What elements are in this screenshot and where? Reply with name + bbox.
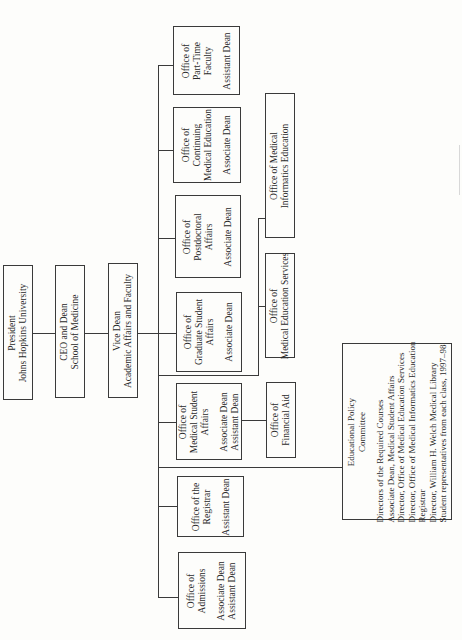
ceo-title: CEO and Dean — [59, 294, 70, 369]
stub-registrar — [158, 506, 177, 507]
committee-member: Director, William H. Welch Medical Libra… — [427, 341, 438, 522]
president-box: President Johns Hopkins University — [3, 265, 33, 400]
office-name-line: Postdoctoral — [193, 207, 204, 266]
office-registrar: Office of the Registrar Assistant Dean — [177, 476, 244, 537]
stub-informatics — [258, 218, 265, 219]
office-name-line: Registrar — [201, 478, 212, 535]
committee-member: Directors of the Required Courses — [375, 341, 386, 522]
office-name-line: Office of — [181, 109, 192, 181]
branch-secondary — [158, 375, 258, 376]
office-name-line: Graduate Student — [194, 299, 205, 365]
committee-title: Educational Policy — [346, 341, 357, 522]
office-name-line: Admissions — [197, 561, 208, 620]
secondary-spine — [258, 218, 259, 376]
office-name-line: Medical Student — [189, 390, 200, 453]
office-head: Assistant Dean — [222, 32, 233, 89]
office-name-line: Office of the — [190, 478, 201, 535]
office-part-time-faculty: Office of Part-Time Faculty Assistant De… — [173, 26, 240, 95]
office-name-line: Faculty — [203, 32, 214, 89]
office-name-line: Affairs — [205, 299, 216, 365]
office-name-line: Informatics Education — [280, 123, 291, 208]
office-head: Assistant Dean — [230, 390, 241, 453]
vice-dean-box: Vice Dean Academic Affairs and Faculty — [108, 263, 138, 398]
president-title: President — [7, 283, 18, 382]
president-org: Johns Hopkins University — [18, 283, 29, 382]
connector-ceo-vicedean — [85, 333, 108, 334]
office-name-line: Office of — [269, 252, 280, 359]
office-name-line: Financial Aid — [281, 394, 292, 445]
office-name-line: Office of — [186, 561, 197, 620]
committee-member: Registrar — [417, 341, 428, 522]
educational-policy-committee: Educational Policy Committee Directors o… — [342, 343, 452, 520]
connector-vicedean-spine — [138, 333, 158, 334]
office-name-line: Office of — [181, 32, 192, 89]
office-name-line: Office of — [182, 207, 193, 266]
office-head: Assistant Dean — [227, 561, 238, 620]
office-name-line: Office of — [183, 299, 194, 365]
office-medical-informatics-education: Office of Medical Informatics Education — [265, 93, 295, 238]
office-name-line: Continuing — [192, 109, 203, 181]
committee-member: Director, Office of Medical Education Se… — [396, 341, 407, 522]
stub-postdoc — [158, 238, 175, 239]
office-name-line: Office of — [270, 394, 281, 445]
office-head: Associate Dean — [216, 561, 227, 620]
office-name-line: Affairs — [204, 207, 215, 266]
office-head: Associate Dean — [223, 207, 234, 266]
office-head: Associate Dean — [224, 299, 235, 365]
office-medical-education-services: Office of Medical Education Services — [265, 253, 295, 358]
stub-part-time — [158, 65, 173, 66]
office-medical-student-affairs: Office of Medical Student Affairs Associ… — [176, 383, 242, 460]
office-graduate-student-affairs: Office of Graduate Student Affairs Assoc… — [176, 292, 242, 372]
stub-admissions — [158, 597, 178, 598]
stub-continuing — [158, 150, 173, 151]
office-name-line: Affairs — [200, 390, 211, 453]
office-financial-aid: Office of Financial Aid — [266, 382, 296, 458]
connector-president-ceo — [33, 333, 55, 334]
stub-med-student — [158, 422, 176, 423]
branch-committee — [158, 467, 342, 468]
committee-title: Committee — [356, 341, 367, 522]
committee-member: Director, Office of Medical Informatics … — [406, 341, 417, 522]
ceo-box: CEO and Dean School of Medicine — [55, 265, 85, 398]
office-name-line: Part-Time — [192, 32, 203, 89]
ceo-org: School of Medicine — [70, 294, 81, 369]
vice-dean-org: Academic Affairs and Faculty — [123, 273, 134, 387]
office-name-line: Medical Education — [203, 109, 214, 181]
office-admissions: Office of Admissions Associate Dean Assi… — [178, 552, 246, 629]
office-head: Assistant Dean — [220, 478, 231, 535]
vice-dean-title: Vice Dean — [112, 273, 123, 387]
office-continuing-medical-education: Office of Continuing Medical Education A… — [173, 107, 241, 183]
stub-graduate — [158, 333, 176, 334]
office-head: Associate Dean — [222, 109, 233, 181]
office-head: Associate Dean — [219, 390, 230, 453]
office-name-line: Medical Education Services — [280, 252, 291, 359]
connector-med-student-financial-aid — [242, 420, 266, 421]
scan-artifact — [459, 145, 460, 195]
office-name-line: Office of — [178, 390, 189, 453]
stub-med-ed-services — [258, 306, 265, 307]
office-postdoctoral-affairs: Office of Postdoctoral Affairs Associate… — [175, 195, 241, 278]
committee-member: Associate Dean, Medical Student Affairs — [385, 341, 396, 522]
committee-member: Student representatives from each class,… — [438, 341, 449, 522]
main-spine — [158, 65, 159, 597]
office-name-line: Office of Medical — [269, 123, 280, 208]
